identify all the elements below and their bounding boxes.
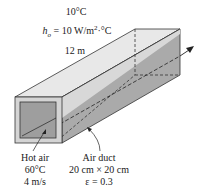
duct-length: 12 m bbox=[55, 45, 95, 57]
duct-diagram: 10°C ho = 10 W/m2·°C 12 m Hot air 60°C 4… bbox=[0, 0, 203, 190]
duct-emissivity: ε = 0.3 bbox=[64, 176, 134, 188]
h-value: = 10 W/m bbox=[51, 25, 94, 36]
air-duct-leader bbox=[89, 129, 100, 151]
exit-arrow-head bbox=[186, 46, 194, 53]
inlet-label-line1: Hot air bbox=[12, 152, 58, 164]
duct-label-line1: Air duct bbox=[64, 152, 134, 164]
inlet-label: Hot air 60°C 4 m/s bbox=[12, 152, 58, 188]
duct-dimensions: 20 cm × 20 cm bbox=[64, 164, 134, 176]
duct-inner-opening bbox=[20, 102, 56, 138]
inlet-velocity: 4 m/s bbox=[12, 176, 58, 188]
ambient-temperature: 10°C bbox=[56, 6, 96, 18]
h-unit: ·°C bbox=[97, 25, 111, 36]
heat-transfer-coefficient: ho = 10 W/m2·°C bbox=[27, 22, 127, 41]
duct-label: Air duct 20 cm × 20 cm ε = 0.3 bbox=[64, 152, 134, 188]
inlet-temperature: 60°C bbox=[12, 164, 58, 176]
